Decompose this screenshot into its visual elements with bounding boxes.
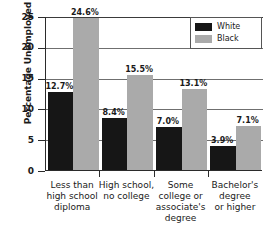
- category-label-3: Bachelor'sdegreeor higher: [204, 180, 266, 213]
- unemployment-by-education-bar-chart: Percentage Unemployed 0510152025 12.7%8.…: [0, 0, 274, 230]
- bar-black-cat0: [73, 18, 99, 170]
- y-tick-15: [38, 79, 45, 80]
- category-label-line: high school: [41, 191, 103, 202]
- y-tick-0: [38, 171, 45, 172]
- bar-white-cat0: [48, 92, 74, 170]
- chart-legend: White Black: [190, 17, 262, 49]
- bar-black-cat2: [182, 89, 208, 170]
- y-tick-label-10: 10: [0, 105, 34, 114]
- bar-black-cat3: [236, 126, 262, 170]
- y-tick-20: [38, 48, 45, 49]
- bar-black-cat1: [127, 75, 153, 170]
- legend-swatch-black-icon: [195, 35, 212, 43]
- category-label-0: Less thanhigh schooldiploma: [41, 180, 103, 213]
- legend-item-black: Black: [195, 33, 257, 45]
- category-label-2: Somecollege orassociate'sdegree: [150, 180, 212, 224]
- bar-value-label-white-cat2: 7.0%: [150, 118, 186, 126]
- legend-swatch-white-icon: [195, 23, 212, 31]
- bar-value-label-white-cat0: 12.7%: [42, 83, 78, 91]
- x-tick-2: [154, 171, 155, 177]
- category-label-line: associate's: [150, 202, 212, 213]
- category-label-line: diploma: [41, 202, 103, 213]
- legend-label-black: Black: [217, 34, 239, 44]
- y-tick-label-25: 25: [0, 13, 34, 22]
- bar-value-label-white-cat1: 8.4%: [96, 109, 132, 117]
- bar-value-label-black-cat1: 15.5%: [121, 66, 157, 74]
- category-label-1: High school,no college: [95, 180, 157, 202]
- y-tick-label-15: 15: [0, 74, 34, 83]
- category-label-line: Bachelor's: [204, 180, 266, 191]
- category-label-line: High school,: [95, 180, 157, 191]
- bar-value-label-black-cat0: 24.6%: [67, 9, 103, 17]
- category-label-line: college or: [150, 191, 212, 202]
- category-label-line: degree: [150, 213, 212, 224]
- x-tick-3: [208, 171, 209, 177]
- bar-white-cat2: [156, 127, 182, 170]
- y-tick-label-20: 20: [0, 43, 34, 52]
- bar-value-label-black-cat2: 13.1%: [176, 80, 212, 88]
- y-tick-5: [38, 140, 45, 141]
- category-label-line: Less than: [41, 180, 103, 191]
- category-label-line: Some: [150, 180, 212, 191]
- legend-item-white: White: [195, 21, 257, 33]
- x-tick-1: [99, 171, 100, 177]
- bar-white-cat3: [210, 146, 236, 170]
- legend-label-white: White: [217, 22, 240, 32]
- y-tick-25: [38, 17, 45, 18]
- category-label-line: degree: [204, 191, 266, 202]
- bar-value-label-black-cat3: 7.1%: [230, 117, 266, 125]
- category-label-line: or higher: [204, 202, 266, 213]
- y-tick-label-0: 0: [0, 167, 34, 176]
- y-tick-label-5: 5: [0, 136, 34, 145]
- y-tick-10: [38, 109, 45, 110]
- category-label-line: no college: [95, 191, 157, 202]
- bar-white-cat1: [102, 118, 128, 170]
- bar-value-label-white-cat3: 3.9%: [204, 137, 240, 145]
